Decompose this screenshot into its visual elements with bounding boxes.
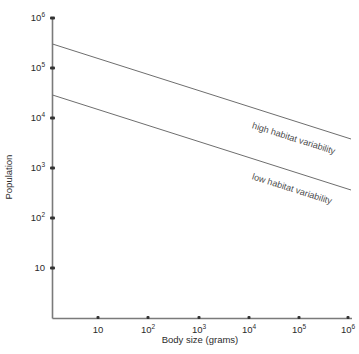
x-axis-title: Body size (grams) <box>162 335 239 345</box>
y-tick-exp-4: 4 <box>41 111 45 118</box>
chart-plot-area <box>0 0 359 354</box>
y-tick-label-1e4: 104 <box>31 113 45 123</box>
x-tick-label-1e4: 104 <box>242 325 256 335</box>
series-line-high-habitat-variability <box>53 44 352 139</box>
y-tick-exp-6: 6 <box>41 11 45 18</box>
x-tick-exp-6: 6 <box>351 323 355 330</box>
y-tick-label-1e3: 103 <box>31 163 45 173</box>
x-tick-exp-2: 2 <box>151 323 155 330</box>
y-tick-exp-5: 5 <box>41 61 45 68</box>
x-tick-label-1e6: 106 <box>341 325 355 335</box>
y-tick-label-1e5: 105 <box>31 63 45 73</box>
x-tick-exp-3: 3 <box>202 323 206 330</box>
y-axis-title: Population <box>4 155 14 200</box>
y-tick-label-10: 10 <box>34 263 45 273</box>
x-tick-exp-4: 4 <box>252 323 256 330</box>
population-vs-body-size-chart: 106 105 104 103 102 10 10 102 103 104 10… <box>0 0 359 354</box>
y-tick-exp-3: 3 <box>41 161 45 168</box>
y-tick-label-1e2: 102 <box>31 213 45 223</box>
x-tick-exp-5: 5 <box>302 323 306 330</box>
x-tick-label-1e5: 105 <box>292 325 306 335</box>
x-tick-label-10: 10 <box>93 325 104 335</box>
x-tick-label-1e2: 102 <box>141 325 155 335</box>
y-tick-label-1e6: 106 <box>31 13 45 23</box>
y-tick-exp-2: 2 <box>41 211 45 218</box>
